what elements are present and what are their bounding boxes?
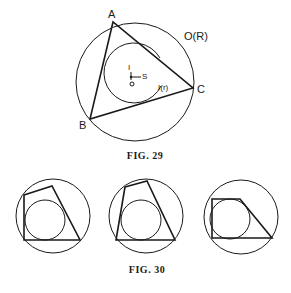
fig-30: FIG. 30 — [16, 179, 278, 275]
bicentric-quadrilateral — [212, 199, 272, 238]
fig-29: I S A B C O(R) I(r) FIG. 29 — [76, 8, 208, 161]
point-o-marker — [130, 82, 134, 86]
label-incircle: I(r) — [158, 83, 169, 92]
center-points: I S — [128, 63, 147, 86]
label-circumcircle: O(R) — [184, 30, 208, 42]
incircle — [121, 200, 161, 240]
bicentric-quadrilateral — [24, 186, 80, 240]
label-c: C — [197, 83, 205, 95]
circumcircle — [16, 179, 90, 253]
label-b: B — [79, 119, 86, 131]
figure-canvas: I S A B C O(R) I(r) FIG. 29 FIG. 30 — [0, 0, 291, 293]
panel-3 — [204, 180, 278, 254]
panel-2 — [109, 179, 183, 253]
incircle — [25, 200, 65, 240]
label-a: A — [108, 8, 116, 20]
label-s: S — [142, 72, 147, 81]
label-i: I — [128, 63, 130, 72]
circumcircle — [204, 180, 278, 254]
incircle — [104, 43, 161, 103]
panel-1 — [16, 179, 90, 253]
triangle-abc — [90, 22, 193, 119]
caption-fig-29: FIG. 29 — [127, 150, 163, 161]
point-marker — [130, 76, 132, 78]
caption-fig-30: FIG. 30 — [129, 264, 165, 275]
